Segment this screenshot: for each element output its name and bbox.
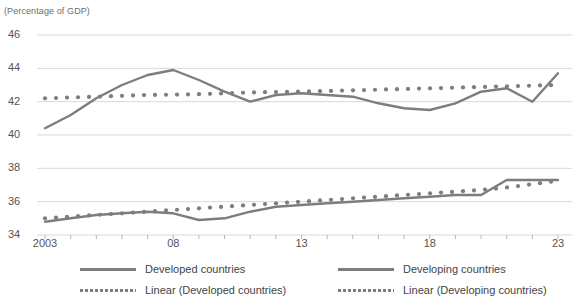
y-tick-label: 40 <box>8 129 34 140</box>
legend-item[interactable]: Developed countries <box>80 262 245 276</box>
trend-dot <box>164 93 168 97</box>
trend-dot <box>527 183 531 187</box>
y-tick-label: 46 <box>8 29 34 40</box>
trend-dot <box>395 193 399 197</box>
trend-dot <box>428 191 432 195</box>
trend-dot <box>351 196 355 200</box>
trend-dot <box>461 189 465 193</box>
trend-dot <box>263 90 267 94</box>
trend-dot <box>450 190 454 194</box>
data-series-1 <box>45 180 558 222</box>
x-tick-label: 13 <box>295 238 307 249</box>
trend-dot <box>472 188 476 192</box>
trend-dot <box>197 92 201 96</box>
trend-dot <box>494 85 498 89</box>
trend-dot <box>417 192 421 196</box>
y-tick-label: 44 <box>8 62 34 73</box>
trend-dot <box>76 95 80 99</box>
trend-dot <box>538 181 542 185</box>
trend-dot <box>120 94 124 98</box>
legend-item-label: Linear (Developing countries) <box>403 285 547 296</box>
trend-dot <box>142 93 146 97</box>
trend-dot <box>307 89 311 93</box>
trend-dot <box>208 206 212 210</box>
y-tick-label: 42 <box>8 96 34 107</box>
trend-dot <box>219 91 223 95</box>
trend-dot <box>230 204 234 208</box>
trend-dot <box>296 90 300 94</box>
trend-dot <box>98 94 102 98</box>
trend-dot <box>505 185 509 189</box>
trend-dot <box>142 210 146 214</box>
legend-dotted-swatch-icon <box>338 285 394 295</box>
trend-dot <box>527 84 531 88</box>
trend-dot <box>241 91 245 95</box>
trend-dot <box>329 198 333 202</box>
trend-dot <box>98 213 102 217</box>
trend-dot <box>164 208 168 212</box>
trend-dot <box>340 197 344 201</box>
trend-dot <box>120 211 124 215</box>
trend-dot <box>406 193 410 197</box>
trend-dot <box>54 216 58 220</box>
legend-item-label: Linear (Developed countries) <box>145 285 286 296</box>
trend-dot <box>549 180 553 184</box>
trend-dot <box>362 196 366 200</box>
trend-dot <box>494 186 498 190</box>
trend-dot <box>76 214 80 218</box>
trend-dot <box>516 84 520 88</box>
trend-dot <box>516 184 520 188</box>
trend-dot <box>87 213 91 217</box>
trend-dot <box>450 86 454 90</box>
trend-dot <box>54 96 58 100</box>
y-tick-label: 34 <box>8 229 34 240</box>
legend-item-label: Developed countries <box>145 264 245 275</box>
x-tick-label: 08 <box>167 238 179 249</box>
trend-dot <box>208 92 212 96</box>
trend-dot <box>483 85 487 89</box>
trend-dot <box>439 191 443 195</box>
trend-dot <box>175 208 179 212</box>
trend-dot <box>186 207 190 211</box>
data-series-0 <box>45 70 558 128</box>
trend-dot <box>406 87 410 91</box>
trend-dot <box>285 90 289 94</box>
trend-dot <box>417 87 421 91</box>
trend-dot <box>263 202 267 206</box>
trend-dot <box>483 188 487 192</box>
trend-dot <box>340 89 344 93</box>
trend-dot <box>186 92 190 96</box>
trend-dot <box>274 201 278 205</box>
trend-dot <box>43 216 47 220</box>
x-tick-label: 23 <box>552 238 564 249</box>
trend-dot <box>241 203 245 207</box>
trend-dot <box>65 215 69 219</box>
legend-line-swatch-icon <box>80 264 136 274</box>
trend-dot <box>384 87 388 91</box>
trend-dot <box>395 87 399 91</box>
legend-item[interactable]: Linear (Developing countries) <box>338 283 547 297</box>
trend-dot <box>252 90 256 94</box>
trend-dot <box>252 203 256 207</box>
legend-item[interactable]: Linear (Developed countries) <box>80 283 286 297</box>
y-tick-label: 36 <box>8 196 34 207</box>
trend-dot <box>197 206 201 210</box>
trend-dot <box>43 96 47 100</box>
trend-dot <box>230 91 234 95</box>
legend-item-label: Developing countries <box>403 264 506 275</box>
legend-dotted-swatch-icon <box>80 285 136 295</box>
trend-dot <box>439 86 443 90</box>
trend-dot <box>461 85 465 89</box>
x-tick-label: 2003 <box>33 238 57 249</box>
trend-dot <box>329 89 333 93</box>
legend-line-swatch-icon <box>338 264 394 274</box>
chart-page: (Percentage of GDP) 34363840424446 20030… <box>0 0 577 303</box>
legend-item[interactable]: Developing countries <box>338 262 506 276</box>
trend-dot <box>384 194 388 198</box>
trend-dot <box>153 93 157 97</box>
trend-dot <box>538 83 542 87</box>
trend-dot <box>307 199 311 203</box>
trend-dot <box>318 198 322 202</box>
trend-dot <box>373 88 377 92</box>
trend-dot <box>472 85 476 89</box>
